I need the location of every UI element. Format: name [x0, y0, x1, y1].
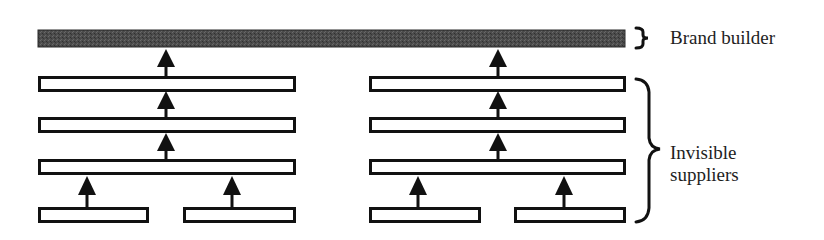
- invisible-suppliers-label: Invisible suppliers: [670, 142, 739, 186]
- arrow-up-icon: [409, 176, 427, 207]
- right-tier-2-box: [371, 119, 625, 132]
- arrow-up-icon: [223, 176, 241, 207]
- brand-brace-icon: [636, 28, 648, 48]
- arrow-up-icon: [157, 91, 175, 117]
- invisible-suppliers-line-1: Invisible: [670, 142, 739, 164]
- right-tier-3-box: [371, 161, 625, 174]
- arrow-up-icon: [489, 91, 507, 117]
- arrow-up-icon: [157, 49, 175, 76]
- left-tier-4a-box: [40, 209, 148, 222]
- brand-builder-bar: [38, 30, 625, 47]
- arrow-up-icon: [157, 133, 175, 159]
- arrow-up-icon: [78, 176, 96, 207]
- left-tier-2-box: [40, 119, 295, 132]
- arrow-up-icon: [555, 176, 573, 207]
- diagram-canvas: Brand builder Invisible suppliers: [0, 0, 824, 240]
- left-tier-3-box: [40, 161, 295, 174]
- left-tier-4b-box: [185, 209, 295, 222]
- left-tier-1-box: [40, 78, 295, 91]
- invisible-suppliers-line-2: suppliers: [670, 164, 739, 186]
- brand-builder-label: Brand builder: [670, 27, 775, 49]
- right-tier-4b-box: [516, 209, 625, 222]
- right-tier-4a-box: [371, 209, 480, 222]
- right-tier-1-box: [371, 78, 625, 91]
- arrow-up-icon: [489, 133, 507, 159]
- arrow-up-icon: [489, 49, 507, 76]
- suppliers-brace-icon: [636, 79, 660, 222]
